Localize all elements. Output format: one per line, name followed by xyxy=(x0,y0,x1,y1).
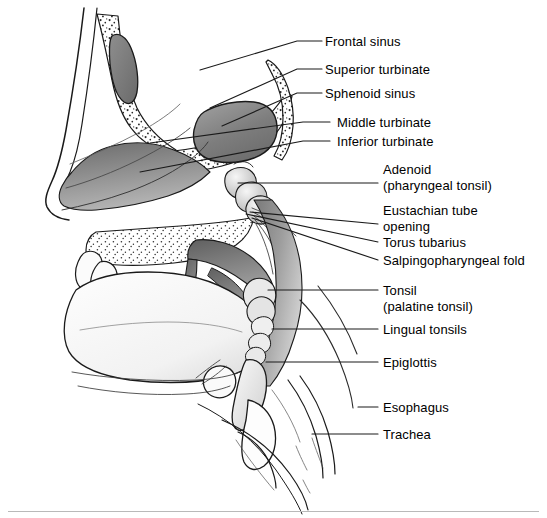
label-eustachian-tube: Eustachian tubeopening xyxy=(383,203,478,235)
leader-frontal-sinus xyxy=(200,41,322,70)
label-salpingopharyngeal-fold-line1: Salpingopharyngeal fold xyxy=(383,253,525,268)
label-inferior-turbinate-line1: Inferior turbinate xyxy=(337,134,433,149)
label-adenoid: Adenoid(pharyngeal tonsil) xyxy=(383,162,492,194)
label-eustachian-tube-line1: Eustachian tube xyxy=(383,203,478,218)
frontal-sinus-cavity xyxy=(109,35,137,104)
label-esophagus: Esophagus xyxy=(383,400,449,416)
label-tonsil-line2: (palatine tonsil) xyxy=(383,299,473,315)
label-frontal-sinus: Frontal sinus xyxy=(325,34,401,50)
label-eustachian-tube-line2: opening xyxy=(383,219,478,235)
label-lingual-tonsils: Lingual tonsils xyxy=(383,322,467,338)
label-esophagus-line1: Esophagus xyxy=(383,400,449,415)
label-middle-turbinate-line1: Middle turbinate xyxy=(337,115,431,130)
footer-rule xyxy=(8,511,539,512)
larynx-and-trachea xyxy=(198,400,308,514)
leader-superior-turbinate xyxy=(210,69,322,108)
label-torus-tubarius: Torus tubarius xyxy=(383,235,466,251)
label-lingual-tonsils-line1: Lingual tonsils xyxy=(383,322,467,337)
neck-contour xyxy=(300,286,357,408)
label-salpingopharyngeal-fold: Salpingopharyngeal fold xyxy=(383,253,525,269)
label-adenoid-line1: Adenoid xyxy=(383,162,431,177)
label-tonsil-line1: Tonsil xyxy=(383,283,417,298)
label-epiglottis-line1: Epiglottis xyxy=(383,355,437,370)
label-trachea-line1: Trachea xyxy=(383,427,431,442)
label-sphenoid-sinus: Sphenoid sinus xyxy=(325,86,415,102)
label-sphenoid-sinus-line1: Sphenoid sinus xyxy=(325,86,415,101)
label-trachea: Trachea xyxy=(383,427,431,443)
label-superior-turbinate: Superior turbinate xyxy=(325,62,430,78)
hyoid-bone xyxy=(203,366,235,398)
label-frontal-sinus-line1: Frontal sinus xyxy=(325,34,401,49)
label-adenoid-line2: (pharyngeal tonsil) xyxy=(383,178,492,194)
label-torus-tubarius-line1: Torus tubarius xyxy=(383,235,466,250)
label-superior-turbinate-line1: Superior turbinate xyxy=(325,62,430,77)
label-tonsil: Tonsil(palatine tonsil) xyxy=(383,283,473,315)
label-epiglottis: Epiglottis xyxy=(383,355,437,371)
anatomy-figure: Frontal sinusSuperior turbinateSphenoid … xyxy=(0,0,547,518)
label-inferior-turbinate: Inferior turbinate xyxy=(337,134,433,150)
label-middle-turbinate: Middle turbinate xyxy=(337,115,431,131)
